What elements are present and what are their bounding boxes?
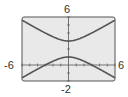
y-max-label: 6	[64, 4, 70, 15]
x-min-label: -6	[4, 60, 14, 71]
y-min-label: -2	[61, 84, 71, 95]
x-max-label: 6	[118, 60, 124, 71]
